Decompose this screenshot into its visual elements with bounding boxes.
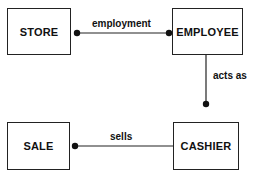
relationship-label-sells: sells <box>110 131 132 142</box>
sells-sale-dot <box>72 143 78 149</box>
entity-cashier-label: CASHIER <box>181 140 232 152</box>
employment-store-dot <box>74 30 80 36</box>
entity-sale-label: SALE <box>23 140 53 152</box>
entity-employee: EMPLOYEE <box>172 8 243 55</box>
entity-store-label: STORE <box>20 26 59 38</box>
acts-as-cashier-dot <box>203 101 209 107</box>
entity-cashier: CASHIER <box>173 122 239 170</box>
entity-store: STORE <box>7 8 71 55</box>
entity-employee-label: EMPLOYEE <box>176 26 239 38</box>
relationship-label-employment: employment <box>92 18 151 29</box>
entity-sale: SALE <box>7 122 70 170</box>
relationship-label-acts-as: acts as <box>213 70 247 81</box>
